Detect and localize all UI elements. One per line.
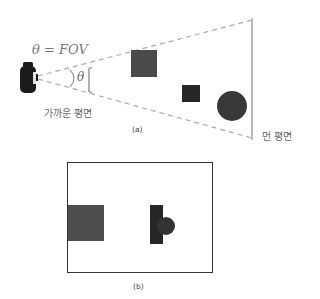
far-plane-label: 먼 평면: [262, 128, 292, 143]
projected-circle: [157, 217, 175, 235]
angle-arc: [70, 70, 74, 87]
near-plane-label: 가까운 평면: [44, 105, 92, 120]
object-small-square: [182, 85, 200, 102]
angle-label: θ: [77, 70, 84, 84]
camera-icon: [20, 62, 38, 93]
caption-b: (b): [133, 282, 144, 291]
object-circle: [217, 91, 247, 121]
object-large-square: [131, 50, 157, 77]
caption-a: (a): [132, 125, 142, 134]
fov-label: θ = FOV: [32, 42, 88, 57]
projected-large-square: [68, 205, 104, 241]
